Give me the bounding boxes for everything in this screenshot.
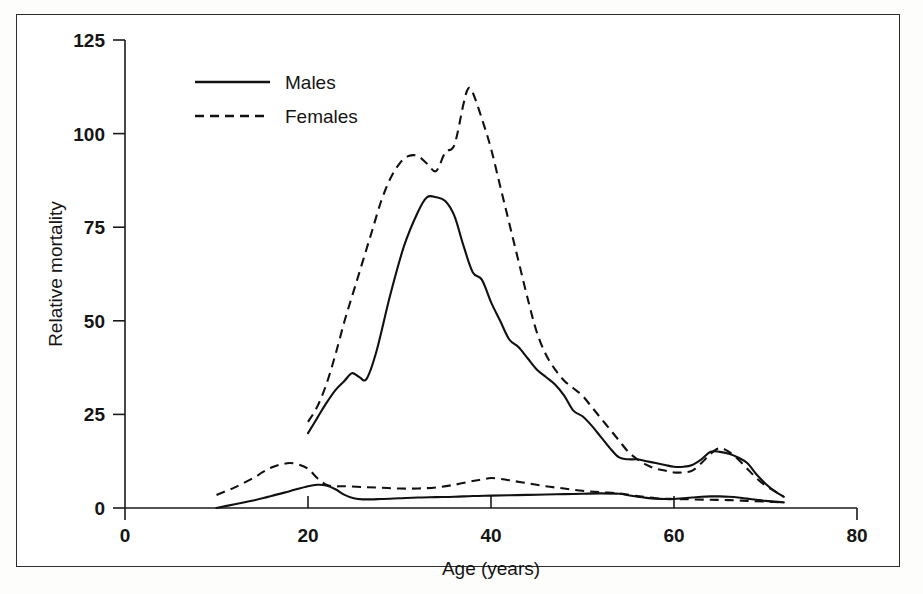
chart-canvas: 0 25 50 75 100 125 0 20 40 60 80 Age (ye… — [0, 0, 923, 594]
y-tick-label-0: 0 — [94, 498, 105, 519]
y-tick-label-25: 25 — [84, 404, 106, 425]
legend-label-females: Females — [285, 106, 358, 127]
legend-label-males: Males — [285, 72, 336, 93]
y-axis-title: Relative mortality — [45, 201, 66, 347]
legend: Males Females — [195, 72, 358, 127]
x-tick-label-60: 60 — [663, 525, 684, 546]
y-tick-label-75: 75 — [84, 217, 106, 238]
y-tick-label-50: 50 — [84, 311, 105, 332]
series-females-upper — [308, 88, 784, 497]
x-tick-label-80: 80 — [846, 525, 867, 546]
figure-container: 0 25 50 75 100 125 0 20 40 60 80 Age (ye… — [0, 0, 923, 594]
series-males-lower — [217, 485, 784, 508]
y-tick-label-125: 125 — [73, 30, 105, 51]
y-axis-ticks — [113, 40, 125, 508]
x-tick-label-0: 0 — [120, 525, 131, 546]
x-tick-label-20: 20 — [297, 525, 318, 546]
figure-caption — [0, 575, 923, 594]
data-series-group — [217, 88, 784, 508]
x-tick-label-40: 40 — [480, 525, 501, 546]
y-tick-label-100: 100 — [73, 124, 105, 145]
